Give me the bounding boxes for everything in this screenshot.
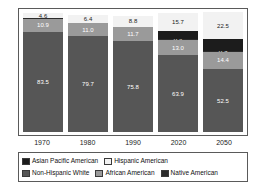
legend-item[interactable]: Hispanic American: [104, 155, 168, 167]
legend-swatch-icon: [104, 158, 112, 165]
chart-legend: Asian Pacific AmericanHispanic American …: [18, 152, 248, 182]
legend-swatch-icon: [161, 170, 169, 177]
bar-segment-value-label: 8.8: [129, 18, 138, 24]
x-axis-tick-labels: 19701980199020202050: [18, 138, 248, 150]
bar-segment[interactable]: 79.7: [68, 36, 108, 132]
bar-segment-value-label: 52.5: [217, 98, 229, 104]
bar-segment[interactable]: 14.4: [203, 52, 243, 69]
bar-segment[interactable]: 22.5: [203, 12, 243, 39]
bar-segment-value-label: 63.9: [172, 91, 184, 97]
stacked-bar-chart-figure: 4.610.983.56.411.079.78.811.775.815.70.4…: [0, 0, 265, 188]
bar-segment[interactable]: 8.8: [113, 16, 153, 27]
x-axis-tick-2050: 2050: [204, 138, 244, 150]
x-axis-tick-1980: 1980: [68, 138, 108, 150]
bar-segment-value-label: 14.4: [217, 57, 229, 63]
bar-segment[interactable]: 15.7: [158, 13, 198, 32]
bar-segment-value-label: 15.7: [172, 19, 184, 25]
bar-column[interactable]: 15.70.413.063.9: [158, 12, 198, 132]
bar-column[interactable]: 8.811.775.8: [113, 12, 153, 132]
x-axis-tick-2020: 2020: [159, 138, 199, 150]
bar-segment[interactable]: [203, 39, 243, 50]
bar-segment[interactable]: 13.0: [158, 40, 198, 56]
legend-label: African American: [105, 169, 154, 177]
bar-segment-value-label: 13.0: [172, 45, 184, 51]
bar-segment-value-label: 6.4: [84, 16, 93, 22]
bar-segment[interactable]: 52.5: [203, 69, 243, 132]
bar-column[interactable]: 6.411.079.7: [68, 12, 108, 132]
bar-segment[interactable]: 10.9: [23, 19, 63, 32]
bar-segment-value-label: 11.7: [127, 31, 139, 37]
legend-label: Native American: [171, 169, 218, 177]
legend-label: Non-Hispanic White: [32, 169, 89, 177]
bar-segment[interactable]: 83.5: [23, 32, 63, 132]
legend-item[interactable]: African American: [95, 167, 154, 179]
bar-segment[interactable]: [158, 31, 198, 39]
bar-segment-value-label: 79.7: [82, 81, 94, 87]
legend-swatch-icon: [22, 158, 30, 165]
bar-segment[interactable]: 75.8: [113, 41, 153, 132]
bar-segment-value-label: 22.5: [217, 23, 229, 29]
legend-label: Hispanic American: [114, 157, 168, 165]
legend-row-2: Non-Hispanic WhiteAfrican AmericanNative…: [22, 167, 244, 179]
bar-segment-value-label: 10.9: [37, 22, 49, 28]
bars-container: 4.610.983.56.411.079.78.811.775.815.70.4…: [19, 9, 247, 135]
x-axis-tick-1990: 1990: [113, 138, 153, 150]
bar-segment[interactable]: 11.7: [113, 27, 153, 41]
legend-label: Asian Pacific American: [32, 157, 98, 165]
bar-column[interactable]: 22.50.914.452.5: [203, 12, 243, 132]
plot-area: 4.610.983.56.411.079.78.811.775.815.70.4…: [18, 8, 248, 136]
legend-row-1: Asian Pacific AmericanHispanic American: [22, 155, 244, 167]
legend-swatch-icon: [95, 170, 103, 177]
bar-segment[interactable]: 63.9: [158, 55, 198, 132]
legend-item[interactable]: Asian Pacific American: [22, 155, 98, 167]
bar-segment-value-label: 75.8: [127, 84, 139, 90]
legend-swatch-icon: [22, 170, 30, 177]
bar-column[interactable]: 4.610.983.5: [23, 12, 63, 132]
bar-segment[interactable]: 6.4: [68, 15, 108, 23]
bar-segment-value-label: 83.5: [37, 79, 49, 85]
legend-item[interactable]: Non-Hispanic White: [22, 167, 89, 179]
x-axis-tick-1970: 1970: [22, 138, 62, 150]
bar-segment[interactable]: 11.0: [68, 23, 108, 36]
legend-item[interactable]: Native American: [161, 167, 218, 179]
bar-segment-value-label: 11.0: [82, 27, 94, 33]
